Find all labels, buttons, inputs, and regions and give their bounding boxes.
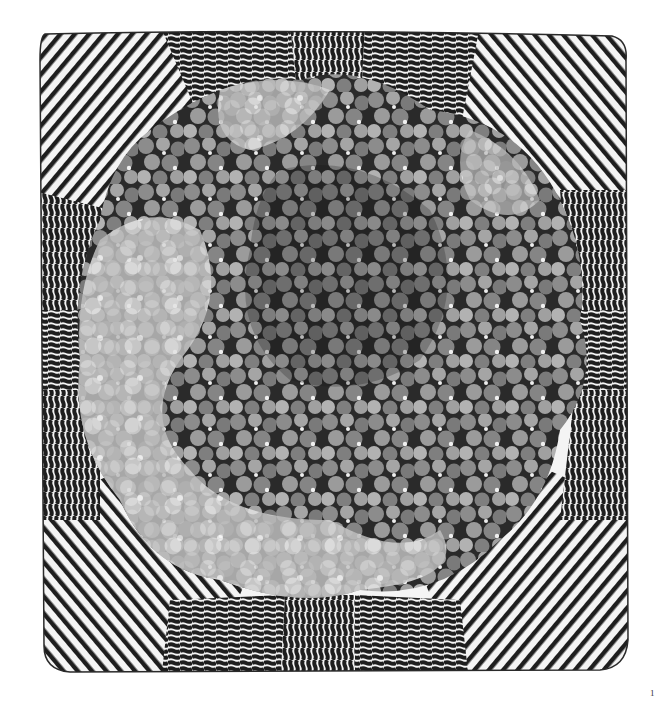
scarf-artwork xyxy=(0,0,661,702)
scarf-body xyxy=(30,25,640,690)
page-number: 1 xyxy=(650,688,655,698)
